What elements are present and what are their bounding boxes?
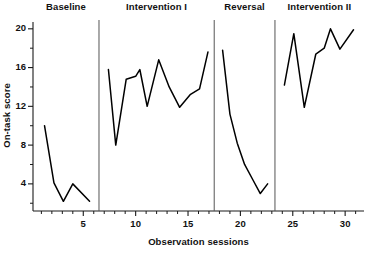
phase-label: Intervention II (259, 1, 369, 12)
y-tick-label: 8 (0, 139, 26, 150)
x-tick-label: 10 (122, 218, 150, 229)
x-axis-title: Observation sessions (109, 236, 289, 247)
x-tick-label: 25 (279, 218, 307, 229)
y-axis-title: On-task score (1, 56, 12, 176)
x-tick-label: 5 (69, 218, 97, 229)
y-tick-label: 16 (0, 61, 26, 72)
chart-figure: On-task score Observation sessions 48121… (0, 0, 369, 259)
x-tick-label: 15 (174, 218, 202, 229)
phase-dividers (99, 20, 275, 211)
y-tick-label: 12 (0, 100, 26, 111)
axes (28, 22, 364, 216)
y-tick-label: 20 (0, 22, 26, 33)
x-tick-label: 20 (226, 218, 254, 229)
x-tick-label: 30 (331, 218, 359, 229)
y-tick-label: 4 (0, 177, 26, 188)
data-series (45, 29, 354, 202)
